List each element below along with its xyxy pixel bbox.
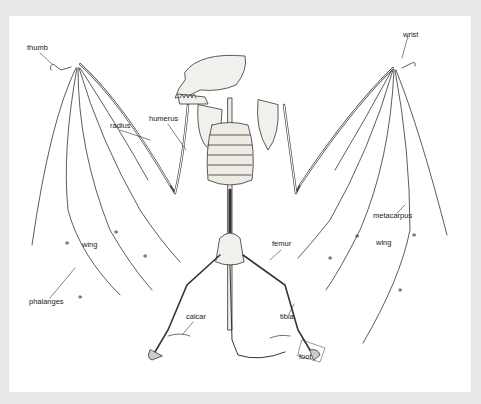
left-wing: [32, 64, 188, 298]
label-calcar: calcar: [186, 313, 206, 321]
label-tibia: tibia: [280, 313, 294, 321]
label-radius: radius: [110, 122, 130, 130]
label-wing-left: wing: [82, 241, 97, 249]
label-thumb: thumb: [27, 44, 48, 52]
label-phalanges: phalanges: [29, 298, 64, 306]
legs: [155, 255, 310, 358]
label-wrist: wrist: [403, 31, 418, 39]
label-humerus: humerus: [149, 115, 178, 123]
bat-skeleton-illustration: [0, 0, 481, 404]
label-metacarpus: metacarpus: [373, 212, 412, 220]
ribcage: [207, 98, 253, 330]
label-foot: foot: [299, 353, 312, 361]
skull: [175, 55, 246, 104]
right-wing: [284, 62, 447, 343]
label-femur: femur: [272, 240, 291, 248]
label-wing-right: wing: [376, 239, 391, 247]
